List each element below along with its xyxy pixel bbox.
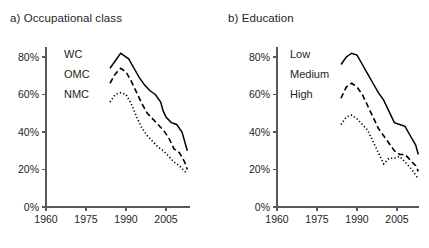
chart-panel-occupational-class: a) Occupational class 0%20%40%60%80%1960…	[0, 0, 215, 248]
y-tick-label: 80%	[18, 51, 39, 63]
series-label-low: Low	[290, 48, 310, 60]
series-label-nmc: NMC	[64, 88, 89, 100]
x-tick-label: 1960	[34, 213, 58, 225]
series-label-wc: WC	[64, 48, 82, 60]
series-line-low	[341, 53, 418, 154]
series-line-nmc	[110, 93, 187, 174]
series-label-medium: Medium	[290, 68, 329, 80]
chart-panel-education: b) Education 0%20%40%60%80%1960197519902…	[214, 0, 429, 248]
y-tick-label: 0%	[255, 201, 270, 213]
x-tick-label: 1975	[305, 213, 329, 225]
series-line-omc	[110, 68, 187, 169]
y-tick-label: 40%	[249, 126, 270, 138]
x-tick-label: 1960	[265, 213, 289, 225]
plot-area-occupational-class: 0%20%40%60%80%1960197519902005WCOMCNMC	[0, 0, 215, 248]
x-tick-label: 1975	[74, 213, 98, 225]
y-tick-label: 20%	[18, 163, 39, 175]
x-tick-label: 2005	[154, 213, 178, 225]
series-line-high	[341, 115, 418, 179]
y-tick-label: 80%	[249, 51, 270, 63]
x-tick-label: 1990	[114, 213, 138, 225]
x-tick-label: 1990	[345, 213, 369, 225]
x-tick-label: 2005	[385, 213, 409, 225]
series-line-wc	[110, 53, 187, 151]
plot-area-education: 0%20%40%60%80%1960197519902005LowMediumH…	[214, 0, 429, 248]
figure-root: a) Occupational class 0%20%40%60%80%1960…	[0, 0, 429, 248]
series-line-medium	[341, 83, 418, 171]
y-tick-label: 20%	[249, 163, 270, 175]
y-tick-label: 60%	[18, 88, 39, 100]
series-label-omc: OMC	[64, 68, 90, 80]
y-tick-label: 40%	[18, 126, 39, 138]
series-label-high: High	[290, 88, 313, 100]
y-tick-label: 0%	[24, 201, 39, 213]
y-tick-label: 60%	[249, 88, 270, 100]
